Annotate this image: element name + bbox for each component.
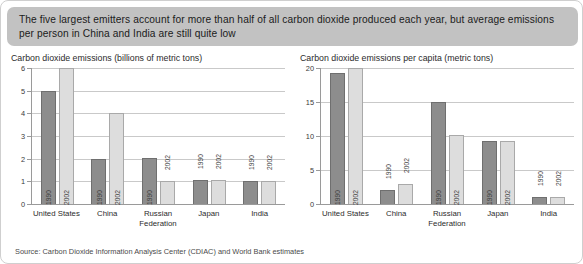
x-axis-labels: United StatesChinaRussian FederationJapa… [31, 209, 285, 228]
bar-year-label: 1990 [384, 164, 391, 179]
bar[interactable]: 2002 [160, 181, 175, 204]
y-axis-label: 0 [310, 200, 314, 209]
bar-year-label: 2002 [352, 190, 359, 205]
bar[interactable]: 2002 [398, 184, 413, 204]
bar-group: 19902002 [321, 68, 372, 204]
bar-year-label: 2002 [453, 190, 460, 205]
bar-group: 19902002 [422, 68, 473, 204]
bar-year-label: 1990 [486, 190, 493, 205]
bar[interactable]: 2002 [261, 181, 276, 204]
plot-area: 0123456199020021990200219902002199020021… [31, 68, 285, 205]
y-axis-label: 3 [21, 132, 25, 141]
y-axis-label: 6 [21, 64, 25, 73]
y-axis-label: 4 [21, 109, 25, 118]
bar[interactable]: 2002 [211, 180, 226, 204]
headline-banner: The five largest emitters account for mo… [7, 7, 578, 46]
figure-container: The five largest emitters account for mo… [0, 0, 583, 264]
chart-title: Carbon dioxide emissions (billions of me… [11, 53, 291, 63]
y-axis-label: 0 [21, 200, 25, 209]
x-axis-category-label: Russian Federation [422, 209, 473, 228]
x-axis-category-label: India [523, 209, 574, 228]
bar-year-label: 2002 [265, 155, 272, 170]
bar-year-label: 2002 [63, 190, 70, 205]
y-axis-label: 5 [21, 86, 25, 95]
x-axis-category-label: Russian Federation [133, 209, 184, 228]
x-axis-category-label: Japan [472, 209, 523, 228]
x-axis-labels: United StatesChinaRussian FederationJapa… [320, 209, 574, 228]
y-axis-tick [316, 204, 321, 205]
headline-text: The five largest emitters account for mo… [19, 13, 566, 41]
bar-year-label: 1990 [536, 171, 543, 186]
bar-group: 19902002 [372, 68, 423, 204]
bar-group: 19902002 [184, 68, 235, 204]
source-note: Source: Carbon Dioxide Information Analy… [15, 247, 304, 256]
bar-group: 19902002 [32, 68, 83, 204]
bar[interactable]: 1990 [41, 91, 56, 204]
bar-year-label: 2002 [113, 190, 120, 205]
bar-year-label: 1990 [435, 190, 442, 205]
y-axis-label: 10 [306, 132, 314, 141]
bar-group: 19902002 [83, 68, 134, 204]
bar[interactable]: 2002 [500, 141, 515, 204]
bar-series-container: 1990200219902002199020021990200219902002 [32, 68, 285, 204]
x-axis-category-label: China [371, 209, 422, 228]
y-axis-tick [27, 204, 32, 205]
bar[interactable]: 2002 [449, 135, 464, 204]
gridline [321, 204, 574, 205]
bar-group: 19902002 [234, 68, 285, 204]
bar-year-label: 1990 [247, 155, 254, 170]
x-axis-category-label: United States [31, 209, 82, 228]
bar[interactable]: 2002 [348, 68, 363, 204]
bar[interactable]: 2002 [550, 197, 565, 204]
bar-year-label: 2002 [215, 154, 222, 169]
bar-year-label: 2002 [554, 171, 561, 186]
bar-group: 19902002 [133, 68, 184, 204]
bar-year-label: 1990 [146, 190, 153, 205]
x-axis-category-label: India [234, 209, 285, 228]
bar[interactable]: 1990 [431, 102, 446, 204]
bar[interactable]: 1990 [532, 197, 547, 204]
bar[interactable]: 1990 [243, 181, 258, 204]
y-axis-label: 5 [310, 166, 314, 175]
bar-group: 19902002 [523, 68, 574, 204]
y-axis-label: 20 [306, 64, 314, 73]
bar-year-label: 1990 [334, 190, 341, 205]
bar-year-label: 1990 [45, 190, 52, 205]
plot-area: 0510152019902002199020021990200219902002… [320, 68, 574, 205]
bar-year-label: 2002 [504, 190, 511, 205]
bar[interactable]: 1990 [142, 158, 157, 204]
bar-year-label: 2002 [402, 158, 409, 173]
gridline [32, 204, 285, 205]
chart-panel-total-emissions: Carbon dioxide emissions (billions of me… [9, 53, 291, 235]
bar[interactable]: 2002 [109, 113, 124, 204]
chart-panel-per-capita: Carbon dioxide emissions per capita (met… [298, 53, 580, 235]
bar[interactable]: 1990 [91, 159, 106, 204]
bar[interactable]: 1990 [380, 190, 395, 204]
bar-series-container: 1990200219902002199020021990200219902002 [321, 68, 574, 204]
y-axis-label: 15 [306, 98, 314, 107]
x-axis-category-label: Japan [183, 209, 234, 228]
bar-year-label: 2002 [164, 155, 171, 170]
x-axis-category-label: United States [320, 209, 371, 228]
y-axis-label: 2 [21, 154, 25, 163]
chart-title: Carbon dioxide emissions per capita (met… [300, 53, 580, 63]
bar-group: 19902002 [473, 68, 524, 204]
bar[interactable]: 1990 [193, 180, 208, 204]
bar[interactable]: 1990 [330, 73, 345, 204]
bar[interactable]: 2002 [59, 68, 74, 204]
bar-year-label: 1990 [197, 154, 204, 169]
y-axis-label: 1 [21, 177, 25, 186]
bar[interactable]: 1990 [482, 141, 497, 204]
bar-year-label: 1990 [95, 190, 102, 205]
x-axis-category-label: China [82, 209, 133, 228]
